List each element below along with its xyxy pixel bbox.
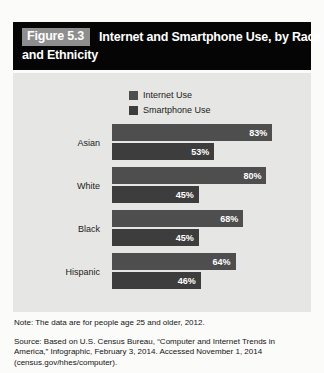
figure-title-text-1: Internet and Smartphone Use, by Race xyxy=(99,30,321,45)
category-label-black: Black xyxy=(13,207,106,250)
bar-asian-smartphone-use: 53% xyxy=(112,143,214,160)
figure-title-line-1: Figure 5.3Internet and Smartphone Use, b… xyxy=(13,28,311,46)
bar-row: 80% xyxy=(112,167,305,184)
bar-pair: 80%45% xyxy=(112,167,305,205)
category-label-hispanic: Hispanic xyxy=(13,250,106,293)
bar-black-internet-use: 68% xyxy=(112,210,243,227)
figure-title-line-2: and Ethnicity xyxy=(13,46,311,63)
legend-item-smartphone-use: Smartphone Use xyxy=(129,104,211,117)
figure-title-text-2: and Ethnicity xyxy=(22,48,98,63)
bar-row: 64% xyxy=(112,253,305,270)
bar-row: 46% xyxy=(112,272,305,289)
bar-value-label: 83% xyxy=(249,128,272,138)
bar-value-label: 68% xyxy=(220,214,243,224)
legend-swatch-smartphone-use xyxy=(129,106,138,115)
bar-row: 53% xyxy=(112,143,305,160)
bar-group: Asian83%53% xyxy=(13,121,311,164)
figure-number-badge: Figure 5.3 xyxy=(22,28,90,46)
bar-value-label: 53% xyxy=(191,147,214,157)
bar-row: 45% xyxy=(112,229,305,246)
bar-hispanic-internet-use: 64% xyxy=(112,253,236,270)
bar-asian-internet-use: 83% xyxy=(112,124,272,141)
bar-row: 83% xyxy=(112,124,305,141)
legend-label-smartphone-use: Smartphone Use xyxy=(143,105,211,116)
bar-row: 68% xyxy=(112,210,305,227)
bar-pair: 64%46% xyxy=(112,253,305,291)
bar-group: Hispanic64%46% xyxy=(13,250,311,293)
bar-black-smartphone-use: 45% xyxy=(112,229,199,246)
legend-label-internet-use: Internet Use xyxy=(143,90,192,101)
figure-notes: Note: The data are for people age 25 and… xyxy=(14,318,310,368)
figure-source: Source: Based on U.S. Census Bureau, “Co… xyxy=(14,337,310,369)
bar-white-internet-use: 80% xyxy=(112,167,266,184)
figure-container: Figure 5.3Internet and Smartphone Use, b… xyxy=(0,0,324,373)
legend-swatch-internet-use xyxy=(129,91,138,100)
figure-title-bar: Figure 5.3Internet and Smartphone Use, b… xyxy=(13,22,311,70)
chart-panel: Internet Use Smartphone Use Asian83%53%W… xyxy=(13,73,311,312)
category-label-white: White xyxy=(13,164,106,207)
bar-pair: 68%45% xyxy=(112,210,305,248)
bar-value-label: 45% xyxy=(176,190,199,200)
bar-pair: 83%53% xyxy=(112,124,305,162)
bar-white-smartphone-use: 45% xyxy=(112,186,199,203)
bar-group: White80%45% xyxy=(13,164,311,207)
chart-legend: Internet Use Smartphone Use xyxy=(129,89,211,119)
category-label-asian: Asian xyxy=(13,121,106,164)
bar-value-label: 80% xyxy=(243,171,266,181)
bar-value-label: 46% xyxy=(178,276,201,286)
bar-group: Black68%45% xyxy=(13,207,311,250)
bar-hispanic-smartphone-use: 46% xyxy=(112,272,201,289)
bar-value-label: 45% xyxy=(176,233,199,243)
legend-item-internet-use: Internet Use xyxy=(129,89,211,102)
bar-row: 45% xyxy=(112,186,305,203)
bar-value-label: 64% xyxy=(213,257,236,267)
figure-note: Note: The data are for people age 25 and… xyxy=(14,318,310,329)
chart-plot-area: Asian83%53%White80%45%Black68%45%Hispani… xyxy=(13,121,311,293)
